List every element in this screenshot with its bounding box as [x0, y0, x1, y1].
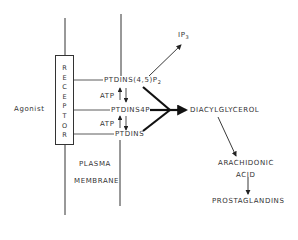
receptor-box: R E C E P T O R [55, 55, 74, 145]
atp-label-bottom: ATP [100, 121, 115, 128]
pi-label: PTDINS [115, 131, 144, 138]
arachidonic-acid-label-1: ARACHIDONIC [218, 160, 274, 167]
diacylglycerol-label: DIACYLGLYCEROL [190, 107, 259, 114]
pip-label: PTDINS4P [111, 107, 150, 114]
agonist-label: Agonist [14, 106, 45, 113]
plasma-label: PLASMA [79, 161, 111, 168]
membrane-label: MEMBRANE [74, 178, 119, 185]
atp-label-top: ATP [100, 93, 115, 100]
prostaglandins-label: PROSTAGLANDINS [212, 198, 284, 205]
arachidonic-acid-label-2: ACID [236, 172, 255, 179]
receptor-label: R E C E P T O R [56, 64, 73, 141]
ip3-label: IP3 [178, 32, 189, 40]
pip2-label: PTDINS(4,5)P2 [104, 77, 161, 85]
